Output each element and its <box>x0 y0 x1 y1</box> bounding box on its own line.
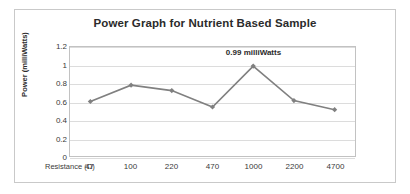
chart-figure: Power Graph for Nutrient Based Sample Po… <box>14 9 396 183</box>
x-axis-tick-label: 2200 <box>286 162 304 171</box>
data-point-marker <box>88 99 93 104</box>
y-axis-title: Power (milliWatts) <box>20 15 29 115</box>
x-axis-tick-label: 1000 <box>245 162 263 171</box>
x-axis-tick-label: 470 <box>206 162 219 171</box>
y-axis-tick-label: 0.2 <box>56 134 67 143</box>
y-axis-tick-label: 0.6 <box>56 97 67 106</box>
y-axis-tick-label: 0.8 <box>56 79 67 88</box>
x-axis-tick-labels: 47100220470100022004700 <box>69 162 356 174</box>
gridline <box>70 158 355 159</box>
x-axis-tick-label: 100 <box>124 162 137 171</box>
y-axis-tick-label: 0 <box>63 153 67 162</box>
power-series <box>70 47 355 156</box>
x-axis-tick-label: 47 <box>85 162 94 171</box>
x-axis-tick-label: 4700 <box>327 162 345 171</box>
x-axis-tick-label: 220 <box>165 162 178 171</box>
plot-area <box>69 46 356 157</box>
data-point-marker <box>169 88 174 93</box>
chart-title: Power Graph for Nutrient Based Sample <box>15 17 395 29</box>
y-axis-tick-labels: 00.20.40.60.811.2 <box>43 46 67 157</box>
data-point-marker <box>128 83 133 88</box>
series-line <box>90 66 334 110</box>
y-axis-tick-label: 1.2 <box>56 42 67 51</box>
y-axis-tick-label: 0.4 <box>56 116 67 125</box>
y-axis-tick-label: 1 <box>63 60 67 69</box>
peak-value-annotation: 0.99 milliWatts <box>226 48 281 57</box>
data-point-marker <box>332 107 337 112</box>
